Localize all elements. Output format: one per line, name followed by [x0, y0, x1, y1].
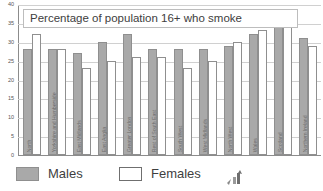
y-tick-label: 30	[0, 40, 14, 46]
y-tick-label: 0	[0, 153, 14, 159]
y-tick-label: 15	[0, 96, 14, 102]
bar-females	[183, 68, 192, 155]
bar-males	[123, 34, 132, 155]
bar-males	[299, 38, 308, 155]
bar-males	[224, 46, 233, 155]
bar-females	[233, 42, 242, 155]
bar-males	[148, 49, 157, 155]
bar-group: Northern Ireland	[296, 5, 321, 155]
legend-item-females[interactable]: Females	[119, 167, 201, 181]
legend-item-males[interactable]: Males	[16, 167, 83, 181]
bar-females	[32, 34, 41, 155]
bar-males	[274, 27, 283, 155]
bar-males	[199, 49, 208, 155]
bar-chart-cursor-icon	[224, 169, 246, 187]
y-tick-label: 5	[0, 134, 14, 140]
legend-swatch-males	[16, 167, 39, 181]
chart-legend: Males Females	[0, 163, 323, 191]
legend-label-males: Males	[48, 167, 83, 181]
bar-females	[208, 61, 217, 155]
y-tick-label: 40	[0, 2, 14, 8]
y-tick-label: 10	[0, 115, 14, 121]
bar-females	[308, 46, 317, 155]
bar-females	[82, 68, 91, 155]
y-tick-label: 25	[0, 59, 14, 65]
bar-males	[249, 34, 258, 155]
y-tick-label: 20	[0, 78, 14, 84]
bar-females	[258, 30, 267, 155]
bar-females	[107, 61, 116, 155]
y-tick-label: 35	[0, 21, 14, 27]
bar-males	[23, 49, 32, 155]
bar-females	[157, 57, 166, 155]
legend-swatch-females	[119, 167, 142, 181]
smoking-percentage-bar-chart: 0510152025303540 NorthYorkshire and Humb…	[0, 0, 323, 191]
bar-males	[73, 53, 82, 155]
bar-females	[283, 27, 292, 155]
bar-males	[48, 49, 57, 155]
bar-males	[174, 49, 183, 155]
bar-females	[132, 57, 141, 155]
chart-title: Percentage of population 16+ who smoke	[23, 9, 298, 28]
legend-label-females: Females	[151, 167, 201, 181]
bar-males	[98, 42, 107, 155]
bar-females	[57, 49, 66, 155]
